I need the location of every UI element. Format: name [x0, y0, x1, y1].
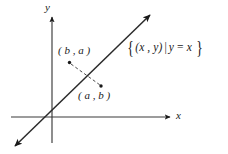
figure-canvas	[0, 0, 228, 154]
y-axis-label: y	[45, 2, 50, 13]
point-label-ba: ( b , a )	[58, 45, 90, 56]
condition-rhs: x	[187, 41, 192, 53]
condition-operator: =	[174, 41, 187, 53]
point-ba-dot	[68, 61, 71, 64]
set-builder-notation: {(x , y)|y=x}	[126, 42, 204, 54]
coordinate-plane-figure: y x ( b , a ) ( a , b ) {(x , y)|y=x}	[0, 0, 228, 154]
x-axis-label: x	[176, 110, 181, 121]
point-label-ab: ( a , b )	[78, 90, 110, 101]
point-ab-dot	[99, 84, 102, 87]
identity-line	[15, 15, 150, 146]
set-tuple: (x , y)	[135, 41, 162, 53]
